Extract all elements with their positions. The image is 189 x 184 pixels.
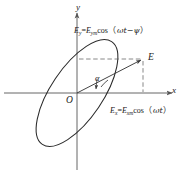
- y-axis-label: y: [76, 3, 80, 12]
- ex-function: cos: [133, 106, 144, 115]
- ey-amp-subscript: ym: [91, 30, 98, 36]
- angle-arc-alpha: [101, 80, 108, 87]
- ey-argument: ωt−ψ: [117, 26, 140, 35]
- figure-container: y x O E α Ey=Eymcos（ωt−ψ） Ex=Exmcos（ωt）: [0, 0, 189, 184]
- equation-ey: Ey=Eymcos（ωt−ψ）: [74, 27, 149, 35]
- ex-argument: ωt: [153, 106, 163, 115]
- origin-label: O: [66, 96, 73, 106]
- ex-amp-subscript: xm: [127, 110, 134, 116]
- ey-function: cos: [97, 26, 108, 35]
- ey-close-paren: ）: [140, 26, 149, 35]
- x-axis-label: x: [172, 86, 176, 95]
- angle-label-alpha: α: [95, 74, 99, 83]
- point-label-E: E: [148, 53, 154, 63]
- equation-ex: Ex=Exmcos（ωt）: [110, 107, 172, 115]
- ex-open-paren: （: [144, 106, 153, 115]
- ex-close-paren: ）: [163, 106, 172, 115]
- field-vector-OE: [77, 60, 141, 93]
- ey-open-paren: （: [108, 26, 117, 35]
